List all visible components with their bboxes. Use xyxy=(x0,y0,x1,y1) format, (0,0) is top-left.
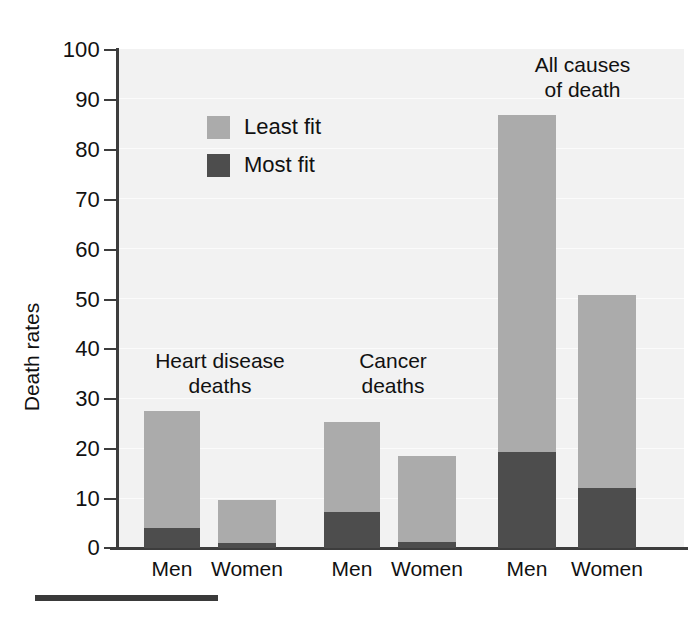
y-axis-title: Death rates xyxy=(20,262,44,452)
bar-segment-most-fit xyxy=(144,528,200,548)
chart-figure: 100 90 80 70 60 50 40 30 20 10 0 Death r… xyxy=(0,0,688,617)
x-tick-label-women: Women xyxy=(187,557,307,581)
y-tick-mark xyxy=(104,149,117,151)
x-tick-label-women: Women xyxy=(547,557,667,581)
y-tick-label: 40 xyxy=(4,338,100,360)
bar-heart-disease-women xyxy=(218,500,276,548)
y-tick-label: 30 xyxy=(4,388,100,410)
y-tick-mark xyxy=(104,49,117,51)
y-tick-label: 80 xyxy=(4,139,100,161)
y-tick-label: 100 xyxy=(4,39,100,61)
bar-all-causes-men xyxy=(498,115,556,548)
y-tick-label: 10 xyxy=(4,488,100,510)
y-tick-mark xyxy=(104,547,117,549)
y-tick-mark xyxy=(104,199,117,201)
bar-segment-most-fit xyxy=(498,452,556,548)
y-tick-mark xyxy=(104,448,117,450)
bar-cancer-men xyxy=(324,422,380,548)
bar-segment-least-fit xyxy=(498,115,556,452)
bar-segment-most-fit xyxy=(578,488,636,548)
bars-layer xyxy=(118,49,684,548)
bar-segment-most-fit xyxy=(398,542,456,548)
bar-segment-most-fit xyxy=(218,543,276,548)
bar-segment-least-fit xyxy=(578,295,636,488)
bar-all-causes-women xyxy=(578,295,636,548)
y-tick-label: 90 xyxy=(4,89,100,111)
y-tick-mark xyxy=(104,249,117,251)
y-tick-label: 0 xyxy=(4,537,100,559)
y-tick-label: 20 xyxy=(4,438,100,460)
y-tick-mark xyxy=(104,498,117,500)
bar-segment-least-fit xyxy=(144,411,200,528)
y-tick-mark xyxy=(104,348,117,350)
y-tick-mark xyxy=(104,299,117,301)
bar-segment-least-fit xyxy=(218,500,276,543)
bar-segment-least-fit xyxy=(324,422,380,512)
bar-heart-disease-men xyxy=(144,411,200,548)
bar-segment-most-fit xyxy=(324,512,380,548)
y-tick-label: 50 xyxy=(4,289,100,311)
bar-cancer-women xyxy=(398,456,456,548)
y-tick-mark xyxy=(104,398,117,400)
y-tick-label: 70 xyxy=(4,189,100,211)
y-tick-mark xyxy=(104,99,117,101)
y-axis-tick-labels: 100 90 80 70 60 50 40 30 20 10 0 xyxy=(0,0,100,617)
footer-rule xyxy=(35,595,218,601)
y-tick-label: 60 xyxy=(4,239,100,261)
bar-segment-least-fit xyxy=(398,456,456,542)
